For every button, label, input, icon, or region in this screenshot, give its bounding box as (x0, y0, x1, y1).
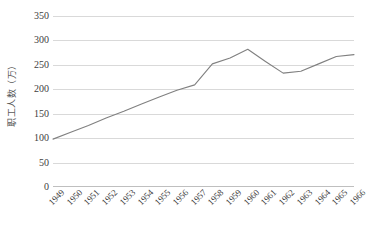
series-line-职工人数 (53, 49, 354, 139)
y-axis-title-label: 职工人数（万） (5, 60, 18, 127)
x-tick-label-1950: 1950 (65, 188, 84, 207)
x-tick-label-1957: 1957 (189, 188, 208, 207)
x-tick-label-1952: 1952 (100, 188, 119, 207)
y-tick-label-100: 100 (34, 133, 49, 143)
plot-area (53, 16, 354, 187)
x-tick-label-1953: 1953 (118, 188, 137, 207)
y-tick-label-150: 150 (34, 109, 49, 119)
y-tick-label-350: 350 (34, 11, 49, 21)
x-tick-label-1959: 1959 (224, 188, 243, 207)
x-tick-label-1960: 1960 (242, 188, 261, 207)
x-tick-label-1963: 1963 (295, 188, 314, 207)
y-tick-label-300: 300 (34, 35, 49, 45)
x-tick-label-1955: 1955 (154, 188, 173, 207)
y-axis-title: 职工人数（万） (0, 0, 22, 187)
series-line-layer (53, 16, 354, 187)
x-tick-label-1961: 1961 (260, 188, 279, 207)
x-tick-label-1951: 1951 (83, 188, 102, 207)
x-tick-label-1954: 1954 (136, 188, 155, 207)
x-tick-label-1966: 1966 (348, 188, 367, 207)
y-tick-label-250: 250 (34, 60, 49, 70)
x-tick-label-1962: 1962 (277, 188, 296, 207)
x-tick-label-1956: 1956 (171, 188, 190, 207)
x-tick-label-1958: 1958 (207, 188, 226, 207)
y-tick-label-200: 200 (34, 84, 49, 94)
y-tick-label-0: 0 (44, 182, 49, 192)
x-tick-label-1964: 1964 (313, 188, 332, 207)
x-axis-tick-labels: 1949195019511952195319541955195619571958… (53, 188, 354, 234)
y-tick-label-50: 50 (39, 158, 49, 168)
x-tick-label-1965: 1965 (331, 188, 350, 207)
y-axis-tick-labels: 050100150200250300350 (22, 0, 52, 195)
